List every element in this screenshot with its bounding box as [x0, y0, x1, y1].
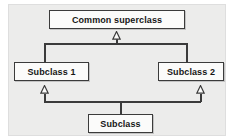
- class-box-label: Subclass 2: [167, 67, 215, 77]
- connector-top-bus: [44, 43, 188, 45]
- class-box-subclass[interactable]: Subclass: [88, 114, 153, 133]
- class-box-label: Subclass: [100, 119, 140, 129]
- generalization-arrowhead-icon: [196, 85, 205, 94]
- generalization-arrowhead-icon: [112, 31, 121, 40]
- generalization-arrowhead-icon: [40, 85, 49, 94]
- diagram-canvas: Common superclass Subclass 1 Subclass 2 …: [0, 0, 233, 140]
- class-box-subclass-1[interactable]: Subclass 1: [14, 62, 89, 81]
- class-box-common-superclass[interactable]: Common superclass: [49, 10, 185, 29]
- class-box-label: Subclass 1: [27, 67, 75, 77]
- connector-to-subclass: [120, 101, 122, 115]
- class-box-label: Common superclass: [72, 15, 162, 25]
- connector-bottom-bus: [44, 101, 201, 103]
- connector-to-subclass2: [186, 43, 188, 63]
- class-box-subclass-2[interactable]: Subclass 2: [158, 62, 224, 81]
- connector-to-subclass1: [44, 43, 46, 63]
